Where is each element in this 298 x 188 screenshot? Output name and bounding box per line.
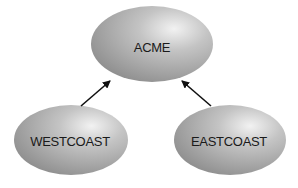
node-westcoast-label: WESTCOAST <box>30 134 110 149</box>
edge-eastcoast-acme-arrow <box>182 81 211 106</box>
node-eastcoast-label: EASTCOAST <box>191 134 267 149</box>
node-acme-label: ACME <box>134 40 170 55</box>
edge-westcoast-acme-arrow <box>81 81 110 106</box>
diagram-canvas <box>0 0 298 188</box>
